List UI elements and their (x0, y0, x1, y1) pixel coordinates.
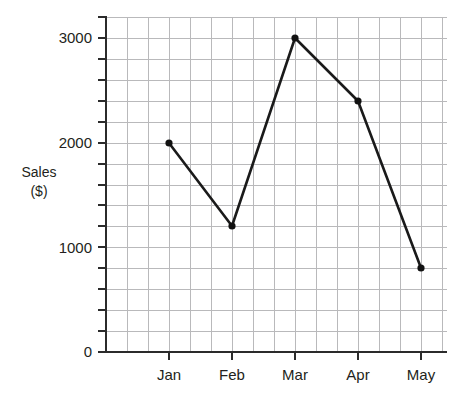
y-tick-label-3000: 3000 (59, 29, 92, 46)
y-axis-title-line2: ($) (30, 183, 47, 199)
chart-canvas: 3000 2000 1000 0 Jan Feb Mar Apr May Sal… (0, 0, 460, 395)
x-tick-label-apr: Apr (346, 366, 369, 383)
grid-horizontal-lines (106, 17, 447, 352)
data-point-apr (354, 97, 361, 104)
y-axis-title-line1: Sales (21, 164, 56, 180)
y-tick-label-1000: 1000 (59, 239, 92, 256)
line-chart: 3000 2000 1000 0 Jan Feb Mar Apr May Sal… (0, 0, 460, 395)
y-axis (98, 16, 106, 353)
x-tick-label-mar: Mar (282, 366, 308, 383)
y-tick-label-0: 0 (84, 343, 92, 360)
data-point-jan (165, 139, 172, 146)
y-axis-title: Sales ($) (21, 164, 56, 199)
data-point-mar (291, 34, 298, 41)
x-axis (105, 352, 447, 360)
x-axis-tick-labels: Jan Feb Mar Apr May (157, 366, 436, 383)
x-tick-label-may: May (407, 366, 436, 383)
y-axis-tick-labels: 3000 2000 1000 0 (59, 29, 92, 360)
data-point-may (417, 264, 424, 271)
y-tick-label-2000: 2000 (59, 134, 92, 151)
x-tick-label-feb: Feb (219, 366, 245, 383)
data-point-feb (228, 222, 235, 229)
x-tick-label-jan: Jan (157, 366, 181, 383)
